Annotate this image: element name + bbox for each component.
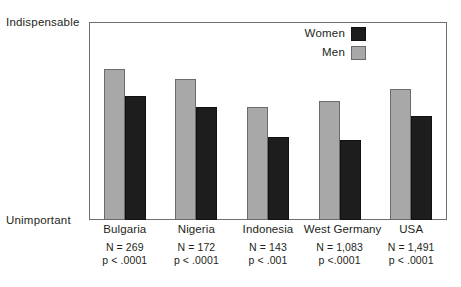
bar-men [175,79,196,220]
sample-size-label: N = 172 [161,240,233,254]
legend-item: Men [286,43,366,62]
category-name: Indonesia [232,222,304,237]
category-name: West Germany [304,222,376,237]
chart-legend: WomenMen [286,24,366,62]
p-value-label: p <.0001 [304,254,376,267]
y-axis-top-label: Indispensable [6,15,80,29]
category-label-group: USAN = 1,491p < .0001 [375,222,447,267]
legend-item: Women [286,24,366,43]
bar-women [340,140,361,220]
bar-women [268,137,289,220]
category-name: Nigeria [161,222,233,237]
y-axis-bottom-label: Unimportant [6,213,71,227]
legend-item-label: Women [305,27,345,40]
bar-women [125,96,146,220]
dark-swatch-icon [351,27,366,41]
sample-size-label: N = 1,083 [304,240,376,254]
p-value-label: p < .0001 [375,254,447,267]
category-name: Bulgaria [89,222,161,237]
light-swatch-icon [351,46,366,60]
bar-group [175,22,217,220]
category-label-group: IndonesiaN = 143p < .001 [232,222,304,267]
bar-chart-figure: 00.51.01.52.02.53.0 Indispensable Unimpo… [0,0,461,287]
sample-size-label: N = 269 [89,240,161,254]
category-label-group: West GermanyN = 1,083p <.0001 [304,222,376,267]
y-axis: 00.51.01.52.02.53.0 [0,0,89,287]
bar-men [319,101,340,220]
bar-group [390,22,432,220]
p-value-label: p < .0001 [161,254,233,267]
bar-group [104,22,146,220]
bar-women [196,107,217,220]
bar-men [390,89,411,220]
category-label-group: BulgariaN = 269p < .0001 [89,222,161,267]
category-name: USA [375,222,447,237]
sample-size-label: N = 143 [232,240,304,254]
bar-group [247,22,289,220]
category-label-group: NigeriaN = 172p < .0001 [161,222,233,267]
legend-item-label: Men [322,46,345,59]
category-labels: BulgariaN = 269p < .0001NigeriaN = 172p … [89,222,447,284]
p-value-label: p < .0001 [89,254,161,267]
bar-men [104,69,125,220]
bar-men [247,107,268,220]
p-value-label: p < .001 [232,254,304,267]
sample-size-label: N = 1,491 [375,240,447,254]
bar-women [411,116,432,220]
bars-layer [89,22,447,220]
